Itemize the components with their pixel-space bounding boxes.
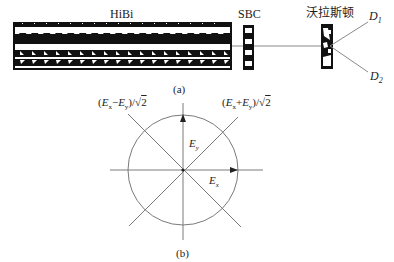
wollaston-label: 沃拉斯顿	[306, 7, 354, 19]
axis-ey-label: Ey	[189, 138, 199, 152]
axis-ex-label: Ex	[209, 175, 219, 189]
caption-a: (a)	[173, 84, 185, 95]
detector-d1-label: D1	[369, 10, 382, 25]
beam-d1	[330, 22, 368, 46]
sbc-label: SBC	[238, 8, 261, 20]
caption-b: (b)	[176, 248, 189, 259]
x-arrowhead	[230, 167, 238, 173]
hibi-label: HiBi	[110, 8, 133, 20]
diagram-canvas	[0, 0, 394, 262]
beam-d2	[330, 46, 368, 72]
sbc-element	[243, 25, 254, 70]
detector-d2-label: D2	[370, 70, 383, 85]
polarization-plot	[110, 103, 263, 240]
diag-left-label: (Ex−Ey)/√2 (Ex−Ey)/√2	[98, 97, 147, 111]
origin-dot	[181, 168, 184, 171]
diag-right-label: (Ex+Ey)/√2 (Ex+Ey)/√2	[222, 97, 271, 111]
hibi-fiber	[13, 22, 232, 70]
